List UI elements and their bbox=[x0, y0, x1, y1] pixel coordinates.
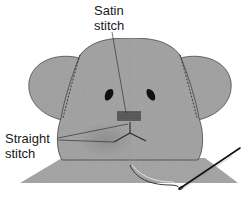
satin-stitch-label: Satin stitch bbox=[94, 3, 124, 33]
satin-label-line2: stitch bbox=[94, 18, 124, 33]
straight-label-line1: Straight bbox=[5, 131, 50, 146]
straight-stitch-label: Straight stitch bbox=[5, 131, 50, 161]
bear-cheek-shading bbox=[77, 122, 133, 158]
satin-label-line1: Satin bbox=[94, 3, 124, 18]
straight-label-line2: stitch bbox=[5, 146, 50, 161]
satin-stitch-nose bbox=[117, 111, 141, 121]
